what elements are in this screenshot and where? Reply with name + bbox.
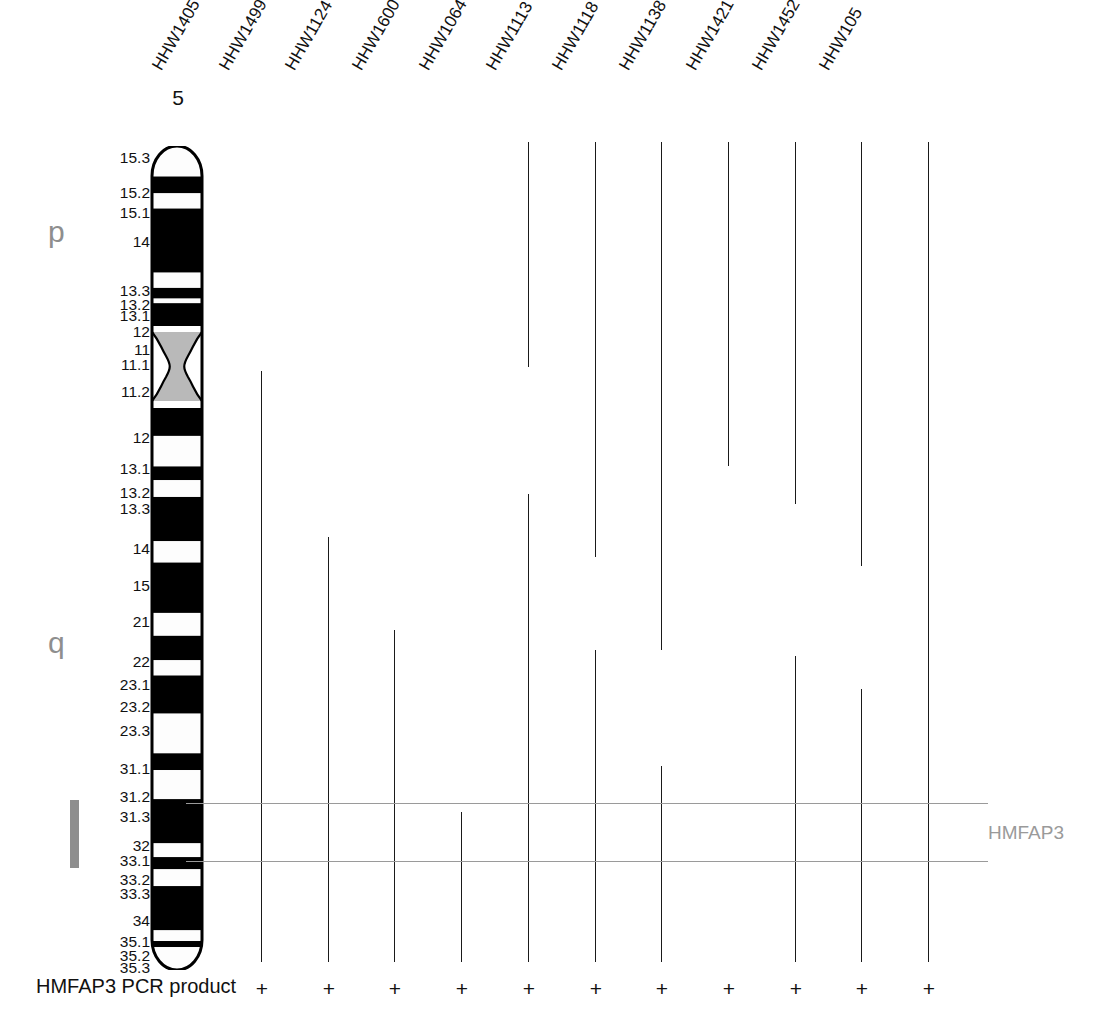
band-label: 31.3 xyxy=(80,809,150,825)
ideogram-band xyxy=(150,636,204,660)
hybrid-retention-line[interactable] xyxy=(795,142,796,504)
ideogram-band xyxy=(150,273,204,288)
ideogram-band xyxy=(150,714,204,754)
ideogram-band xyxy=(150,193,204,208)
pcr-result-plus: + xyxy=(317,977,341,1001)
pcr-product-row-label: HMFAP3 PCR product xyxy=(36,975,236,998)
hybrid-retention-line[interactable] xyxy=(528,142,529,367)
pcr-result-plus: + xyxy=(650,977,674,1001)
ideogram-band xyxy=(150,869,204,886)
pcr-result-plus: + xyxy=(250,977,274,1001)
locus-boundary-rule xyxy=(186,861,988,862)
band-label: 15.2 xyxy=(80,185,150,201)
ideogram-band xyxy=(150,480,204,497)
hybrid-retention-line[interactable] xyxy=(795,656,796,962)
pcr-result-plus: + xyxy=(584,977,608,1001)
ideogram-band xyxy=(150,299,204,304)
ideogram-band-group xyxy=(150,146,204,970)
hybrid-retention-line[interactable] xyxy=(328,537,329,962)
band-label: 14 xyxy=(80,234,150,250)
pcr-result-plus: + xyxy=(717,977,741,1001)
ideogram-band xyxy=(150,541,204,562)
band-label: 13.3 xyxy=(80,501,150,517)
band-label: 23.2 xyxy=(80,699,150,715)
ideogram-band xyxy=(150,886,204,930)
band-label: 13.1 xyxy=(80,308,150,324)
ideogram-band xyxy=(150,209,204,273)
ideogram-svg xyxy=(150,146,204,970)
locus-boundary-rule xyxy=(186,803,988,804)
hybrid-retention-line[interactable] xyxy=(861,689,862,962)
band-label: 15 xyxy=(80,578,150,594)
hybrid-retention-line[interactable] xyxy=(661,142,662,650)
ideogram-band xyxy=(150,941,204,947)
ideogram-band xyxy=(150,843,204,857)
ideogram-band xyxy=(150,676,204,714)
ideogram-band xyxy=(150,753,204,770)
ideogram-band xyxy=(150,770,204,799)
hybrid-retention-line[interactable] xyxy=(595,142,596,557)
band-label: 33.3 xyxy=(80,886,150,902)
ideogram-band xyxy=(150,436,204,467)
chromosome-hybrid-mapping-figure: 5 p q 15.315.215.11413.313.213.1121111.1… xyxy=(0,0,1106,1030)
ideogram-band xyxy=(150,660,204,675)
ideogram-band xyxy=(150,288,204,299)
hybrid-retention-line[interactable] xyxy=(528,494,529,962)
band-label: 35.3 xyxy=(80,960,150,976)
band-label: 23.3 xyxy=(80,723,150,739)
hybrid-retention-line[interactable] xyxy=(928,142,929,962)
ideogram-band xyxy=(150,857,204,869)
hybrid-retention-line[interactable] xyxy=(394,630,395,962)
locus-name-label: HMFAP3 xyxy=(988,822,1064,844)
band-label: 31.2 xyxy=(80,789,150,805)
ideogram-band xyxy=(150,930,204,941)
ideogram-band xyxy=(150,613,204,636)
band-label: 33.1 xyxy=(80,853,150,869)
band-label: 22 xyxy=(80,654,150,670)
hybrid-retention-line[interactable] xyxy=(728,142,729,466)
hybrid-retention-line[interactable] xyxy=(595,650,596,962)
pcr-result-plus: + xyxy=(450,977,474,1001)
band-label: 13.2 xyxy=(80,485,150,501)
ideogram-band xyxy=(150,177,204,194)
band-label: 14 xyxy=(80,541,150,557)
band-label: 34 xyxy=(80,913,150,929)
band-label: 11.2 xyxy=(80,384,150,400)
ideogram-band xyxy=(150,799,204,843)
band-label: 15.3 xyxy=(80,150,150,166)
pcr-result-plus: + xyxy=(517,977,541,1001)
ideogram-band xyxy=(150,466,204,480)
ideogram-band xyxy=(150,497,204,541)
band-label: 12 xyxy=(80,324,150,340)
band-label: 11.1 xyxy=(80,357,150,373)
pcr-result-plus: + xyxy=(383,977,407,1001)
ideogram-band xyxy=(150,146,204,177)
ideogram-panel: 5 p q 15.315.215.11413.313.213.1121111.1… xyxy=(0,0,240,1030)
ideogram-band xyxy=(150,407,204,436)
band-label: 23.1 xyxy=(80,677,150,693)
band-label: 15.1 xyxy=(80,205,150,221)
band-label: 21 xyxy=(80,614,150,630)
pcr-result-plus: + xyxy=(784,977,808,1001)
band-label-column: 15.315.215.11413.313.213.1121111.111.212… xyxy=(30,0,150,1030)
band-label: 31.1 xyxy=(80,761,150,777)
band-label: 12 xyxy=(80,430,150,446)
pcr-result-plus: + xyxy=(850,977,874,1001)
hybrid-retention-line[interactable] xyxy=(461,812,462,962)
hybrid-retention-line[interactable] xyxy=(661,766,662,962)
ideogram-band xyxy=(150,563,204,613)
chromosome-5-ideogram xyxy=(150,146,204,970)
band-label: 13.1 xyxy=(80,461,150,477)
hybrid-retention-line[interactable] xyxy=(861,142,862,566)
pcr-result-plus: + xyxy=(917,977,941,1001)
hybrid-retention-line[interactable] xyxy=(261,371,262,962)
